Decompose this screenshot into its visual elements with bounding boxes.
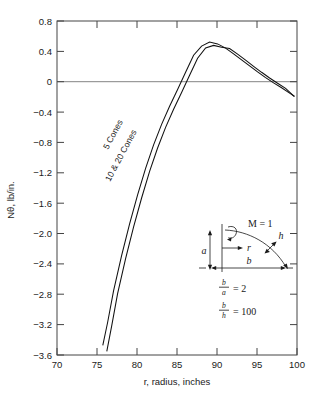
data-series-group	[103, 42, 295, 351]
x-tick-label: 85	[172, 359, 183, 370]
y-tick-label: −2.8	[33, 289, 52, 300]
x-tick-label: 100	[289, 359, 305, 370]
chart-svg: 0.8 0.4 0 −0.4 −0.8 −1.2 −1.6 −2.0 −2.4 …	[0, 0, 317, 408]
ratio-value: = 2	[233, 283, 246, 294]
chart-figure: 0.8 0.4 0 −0.4 −0.8 −1.2 −1.6 −2.0 −2.4 …	[0, 0, 317, 408]
ratio-numerator: b	[222, 301, 226, 310]
y-tick-label: −0.4	[33, 107, 52, 118]
y-axis-ticks	[57, 21, 297, 355]
ratio-numerator: b	[222, 278, 226, 287]
x-tick-label: 70	[52, 359, 63, 370]
x-axis-ticks	[57, 21, 297, 355]
x-tick-label: 95	[252, 359, 263, 370]
y-tick-label: −1.2	[33, 167, 52, 178]
inset-dim-r-arrow	[238, 246, 243, 250]
y-tick-label: 0	[47, 76, 52, 87]
ratio-denominator: h	[222, 311, 226, 320]
inset-label-r: r	[247, 242, 251, 253]
x-axis-tick-labels: 70 75 80 85 90 95 100	[52, 359, 305, 370]
inset-label-a: a	[202, 245, 207, 256]
inset-dim-b-arrow-left	[211, 266, 216, 270]
inset-label-b: b	[247, 255, 252, 266]
inset-ratio-b-over-h: b h = 100	[219, 301, 256, 320]
y-axis-title: Nθ, lb/in.	[5, 181, 16, 219]
y-tick-label: 0.4	[39, 46, 52, 57]
series-path-5-cones	[103, 42, 295, 345]
x-tick-label: 75	[92, 359, 103, 370]
ratio-value: = 100	[233, 306, 256, 317]
series-path-10-20-cones	[107, 45, 295, 351]
y-tick-label: −2.0	[33, 228, 52, 239]
y-tick-label: −1.6	[33, 198, 52, 209]
y-tick-label: −3.2	[33, 319, 52, 330]
x-tick-label: 80	[132, 359, 143, 370]
inset-ratio-b-over-a: b a = 2	[219, 278, 246, 297]
inset-dim-a-arrow-bottom	[208, 265, 212, 270]
y-axis-tick-labels: 0.8 0.4 0 −0.4 −0.8 −1.2 −1.6 −2.0 −2.4 …	[33, 16, 52, 361]
ratio-denominator: a	[222, 288, 226, 297]
inset-thickness-arrow-in	[265, 249, 270, 254]
inset-shell-meridian	[225, 230, 286, 267]
x-axis-title: r, radius, inches	[144, 376, 211, 387]
inset-diagram: a r b M = 1 h b a = 2 b	[199, 218, 293, 320]
y-tick-label: −2.4	[33, 258, 52, 269]
inset-dim-a-arrow-top	[208, 230, 212, 235]
plot-frame	[57, 21, 297, 355]
x-tick-label: 90	[212, 359, 223, 370]
inset-label-moment: M = 1	[248, 218, 273, 229]
y-tick-label: −0.8	[33, 137, 52, 148]
y-tick-label: −3.6	[33, 350, 52, 361]
y-tick-label: 0.8	[39, 16, 52, 27]
inset-moment-arc	[228, 226, 237, 238]
inset-label-h: h	[279, 230, 284, 241]
